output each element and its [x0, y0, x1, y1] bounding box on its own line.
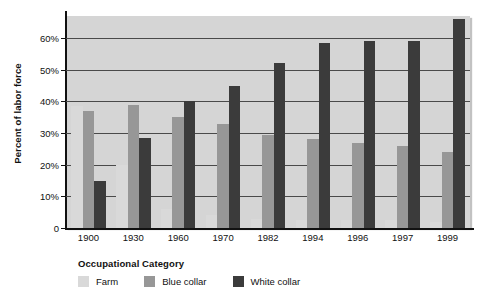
bar — [296, 220, 308, 228]
x-axis-tick-label: 1970 — [213, 232, 234, 243]
bar-group — [335, 16, 380, 228]
bar — [262, 135, 274, 228]
y-axis-tick-label: 30% — [40, 128, 59, 139]
bar — [352, 143, 364, 228]
bar — [116, 165, 128, 228]
bar-chart-figure: Percent of labor force 010%20%30%40%50%6… — [0, 0, 491, 304]
x-axis-tick-label: 1930 — [123, 232, 144, 243]
x-axis-tick-label: 1982 — [257, 232, 278, 243]
bar-group — [290, 16, 335, 228]
bar-group — [201, 16, 246, 228]
legend-swatch — [144, 276, 155, 287]
bar — [385, 220, 397, 228]
legend-label: Farm — [96, 276, 118, 287]
y-axis-tick-label: 50% — [40, 64, 59, 75]
bar-group — [156, 16, 201, 228]
bar — [341, 220, 353, 228]
y-axis-tick-label: 60% — [40, 33, 59, 44]
bar — [274, 63, 286, 228]
x-axis-tick-label: 1994 — [302, 232, 323, 243]
bar — [83, 111, 95, 228]
x-axis-tick-label: 1996 — [347, 232, 368, 243]
bar — [453, 19, 465, 228]
bar — [442, 152, 454, 228]
bar — [430, 222, 442, 228]
y-axis-tick-label: 40% — [40, 96, 59, 107]
bar-group — [380, 16, 425, 228]
bar — [71, 106, 83, 228]
legend-title: Occupational Category — [78, 258, 326, 269]
bar — [139, 138, 151, 228]
bar — [364, 41, 376, 228]
bar — [251, 219, 263, 228]
bar — [408, 41, 420, 228]
bar — [319, 43, 331, 228]
y-axis-tick — [61, 228, 66, 229]
y-axis-title: Percent of labor force — [12, 34, 23, 194]
x-axis-tick-label: 1999 — [437, 232, 458, 243]
y-axis-tick-label: 0 — [54, 223, 59, 234]
bar — [184, 101, 196, 228]
bar — [161, 209, 173, 228]
legend-label: Blue collar — [162, 276, 206, 287]
legend-item: White collar — [233, 276, 301, 287]
bar-group — [66, 16, 111, 228]
bar-group — [111, 16, 156, 228]
bar-group — [425, 16, 470, 228]
legend-items: FarmBlue collarWhite collar — [78, 276, 326, 287]
y-axis-tick-label: 10% — [40, 191, 59, 202]
bar — [172, 117, 184, 228]
bar — [307, 139, 319, 228]
legend-swatch — [233, 276, 244, 287]
legend-item: Blue collar — [144, 276, 206, 287]
legend-swatch — [78, 276, 89, 287]
bar — [94, 181, 106, 228]
plot-area: 010%20%30%40%50%60% — [66, 16, 470, 228]
bar — [217, 124, 229, 228]
x-axis-tick-label: 1900 — [78, 232, 99, 243]
bar-group — [246, 16, 291, 228]
bar — [128, 105, 140, 228]
legend-item: Farm — [78, 276, 118, 287]
y-axis-tick-label: 20% — [40, 159, 59, 170]
legend: Occupational Category FarmBlue collarWhi… — [78, 258, 326, 287]
bar-groups — [66, 16, 470, 228]
bar — [229, 86, 241, 228]
x-axis-tick-label: 1997 — [392, 232, 413, 243]
x-axis-tick-label: 1960 — [168, 232, 189, 243]
bar — [206, 215, 218, 228]
legend-label: White collar — [251, 276, 301, 287]
bar — [397, 146, 409, 228]
